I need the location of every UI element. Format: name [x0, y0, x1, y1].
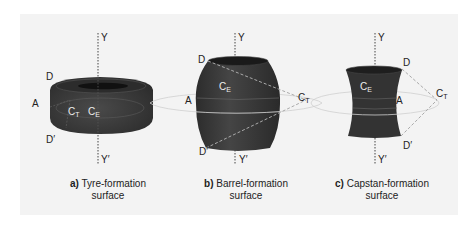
- label-ct-c: CT: [436, 88, 448, 100]
- label-ct-b: CT: [298, 92, 310, 104]
- label-y-prime-b: Y′: [239, 154, 248, 165]
- label-d-c: D: [403, 57, 410, 68]
- caption-sub-b: surface: [230, 190, 263, 201]
- capstan-formation-figure: Y Y′ D A D′ CT CE: [311, 32, 448, 165]
- label-d-prime-a: D′: [46, 134, 55, 145]
- label-y-a: Y: [101, 32, 108, 43]
- label-d-prime-c: D′: [403, 140, 412, 151]
- label-y-c: Y: [378, 32, 385, 43]
- barrel-shape: [196, 61, 280, 151]
- label-a-a: A: [32, 98, 39, 109]
- caption-b: b) Barrel-formation surface: [186, 178, 306, 202]
- label-d-a: D: [46, 71, 53, 82]
- label-a-b: A: [185, 95, 192, 106]
- caption-letter-b: b): [204, 178, 213, 189]
- label-a-c: A: [396, 95, 403, 106]
- caption-title-c: Capstan-formation: [347, 178, 429, 189]
- label-d-prime-b: D′: [199, 146, 208, 157]
- tyre-formation-figure: Y Y′ D A D′ CT CE: [32, 32, 153, 165]
- caption-sub-c: surface: [366, 190, 399, 201]
- caption-title-a: Tyre-formation: [82, 178, 146, 189]
- label-y-b: Y: [238, 32, 245, 43]
- label-d-b: D: [198, 54, 205, 65]
- label-y-prime-a: Y′: [101, 154, 110, 165]
- barrel-formation-figure: Y Y′ D A D′ CT CE: [150, 32, 322, 165]
- caption-letter-a: a): [70, 178, 79, 189]
- capstan-shape: [346, 70, 402, 138]
- caption-a: a) Tyre-formation surface: [48, 178, 168, 202]
- label-y-prime-c: Y′: [378, 154, 387, 165]
- caption-c: c) Capstan-formation surface: [318, 178, 446, 202]
- caption-letter-c: c): [335, 178, 344, 189]
- caption-sub-a: surface: [92, 190, 125, 201]
- caption-title-b: Barrel-formation: [216, 178, 288, 189]
